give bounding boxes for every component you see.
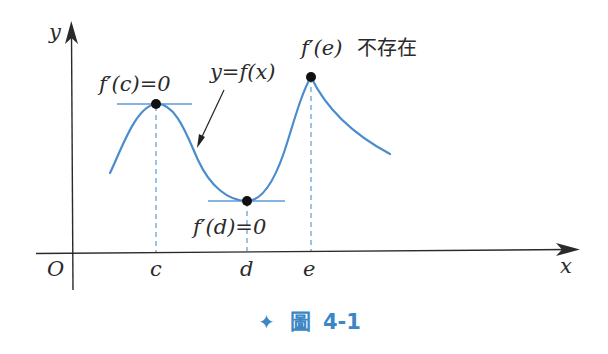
tick-label-d: d <box>240 257 253 281</box>
min-point-label: f′(d)=0 <box>191 215 266 239</box>
tangent-lines <box>117 104 285 201</box>
x-axis-label: x <box>560 254 572 278</box>
caption-star-icon: ✦ <box>258 310 275 334</box>
curve-pointer-arrowhead-icon <box>197 134 205 148</box>
tick-label-c: c <box>150 257 162 281</box>
origin-label: O <box>47 257 64 281</box>
cusp-point-label-math: f′(e) <box>299 36 342 60</box>
caption-number: 4-1 <box>323 310 361 334</box>
critical-points <box>151 72 316 206</box>
max-point-label: f′(c)=0 <box>97 72 171 96</box>
cusp-point-label-text: 不存在 <box>357 36 417 60</box>
point-e <box>306 72 316 82</box>
x-axis <box>36 250 568 254</box>
point-d <box>242 196 252 206</box>
y-axis-label: y <box>48 20 62 44</box>
figure-caption: ✦ 圖 4-1 <box>258 310 361 334</box>
y-axis <box>72 34 74 290</box>
curve-pointer-line <box>200 90 224 141</box>
curve-label: y=f(x) <box>209 60 275 84</box>
derivative-critical-points-figure: y x O c d e y=f(x) f′(c)=0 f′(d)=0 f′(e)… <box>0 0 608 354</box>
caption-prefix: 圖 <box>290 310 311 334</box>
tick-label-e: e <box>303 257 315 281</box>
curve-pointer <box>197 90 224 148</box>
point-c <box>151 99 161 109</box>
